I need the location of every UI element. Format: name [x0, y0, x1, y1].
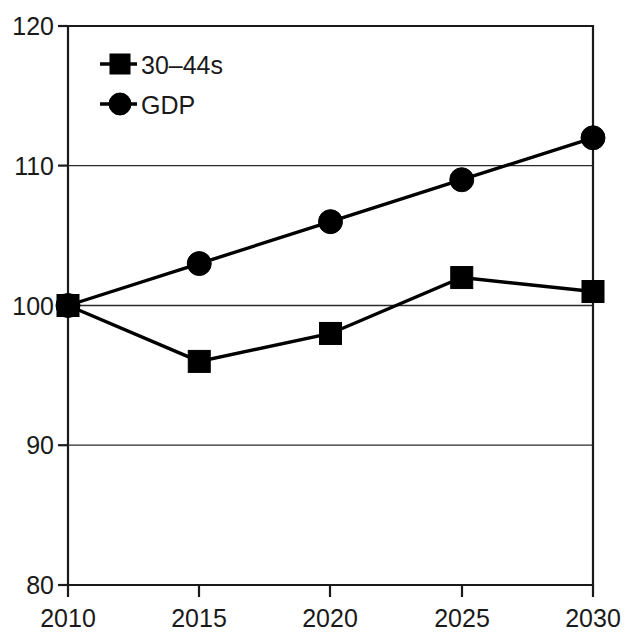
data-point-square-marker	[320, 322, 342, 344]
x-axis-labels: 2010 2015 2020 2025 2030	[40, 604, 621, 632]
data-point-square-marker	[582, 281, 604, 303]
legend-label-series-0: 30–44s	[141, 51, 223, 79]
x-axis-label-2020: 2020	[302, 604, 358, 632]
legend-label-series-1: GDP	[141, 91, 195, 119]
data-point-circle-marker	[581, 126, 605, 150]
x-axis-label-2015: 2015	[171, 604, 227, 632]
y-axis-label-120: 120	[12, 12, 54, 40]
data-point-square-marker	[188, 350, 210, 372]
y-axis-label-100: 100	[12, 292, 54, 320]
x-axis-label-2010: 2010	[40, 604, 96, 632]
series-line-0	[68, 278, 593, 362]
data-point-square-marker	[451, 267, 473, 289]
y-axis-label-110: 110	[14, 152, 54, 180]
data-point-circle-marker	[187, 252, 211, 276]
x-axis-label-2025: 2025	[434, 604, 490, 632]
series-gdp	[56, 126, 605, 318]
y-axis-labels: 120 110 100 90 80	[12, 12, 54, 599]
chart-canvas: 120 110 100 90 80 2010 2015 2020 2025 20…	[0, 0, 633, 643]
line-chart: 120 110 100 90 80 2010 2015 2020 2025 20…	[0, 0, 633, 643]
gridlines	[68, 166, 593, 446]
data-point-circle-marker	[319, 210, 343, 234]
legend-circle-marker-icon	[109, 93, 131, 115]
y-axis-label-80: 80	[26, 571, 54, 599]
chart-legend: 30–44s GDP	[100, 51, 223, 119]
data-point-circle-marker	[56, 294, 80, 318]
data-point-circle-marker	[450, 168, 474, 192]
data-series-layer	[56, 126, 605, 373]
y-axis-label-90: 90	[26, 431, 54, 459]
x-axis-ticks	[68, 585, 593, 597]
x-axis-label-2030: 2030	[565, 604, 621, 632]
legend-square-marker-icon	[110, 54, 130, 74]
